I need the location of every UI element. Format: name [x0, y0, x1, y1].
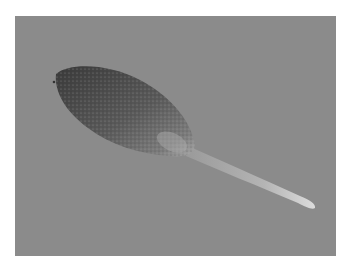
seed-tail: [186, 146, 315, 209]
seed-tip: [53, 81, 56, 84]
specimen-illustration: [0, 0, 350, 272]
